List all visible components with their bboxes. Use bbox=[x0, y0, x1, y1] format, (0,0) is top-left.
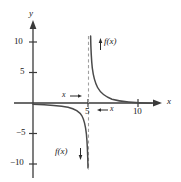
x-axis-label: x bbox=[167, 97, 171, 106]
annot-arrow-x-right-head bbox=[78, 94, 82, 98]
annotation-fx-to-positive-infinity: f(x) bbox=[104, 37, 117, 46]
annotation-x-approaches-from-left: x bbox=[62, 91, 66, 99]
plot-canvas bbox=[0, 0, 181, 182]
x-tick-label-5: 5 bbox=[85, 107, 89, 116]
curve-left-branch bbox=[33, 104, 88, 168]
annotation-fx-to-negative-infinity: f(x) bbox=[55, 147, 68, 156]
annot-arrow-fx-down-head bbox=[79, 155, 83, 160]
y-axis-label: y bbox=[29, 9, 33, 18]
y-tick-label-5: 5 bbox=[20, 67, 24, 76]
curve-right-branch bbox=[91, 36, 152, 103]
x-axis-arrowhead bbox=[153, 100, 162, 107]
x-tick-label-10: 10 bbox=[133, 107, 142, 116]
y-tick-label-10: 10 bbox=[14, 37, 23, 46]
y-tick-label-neg5: −5 bbox=[16, 128, 25, 137]
annotation-x-approaches-from-right: x bbox=[110, 105, 114, 113]
annot-arrow-fx-up-head bbox=[99, 38, 103, 43]
function-graph-figure: y x 10 5 −5 −10 5 10 x x f(x) f(x) bbox=[0, 0, 181, 182]
y-tick-label-neg10: −10 bbox=[10, 158, 23, 167]
y-axis-arrowhead bbox=[30, 20, 37, 29]
